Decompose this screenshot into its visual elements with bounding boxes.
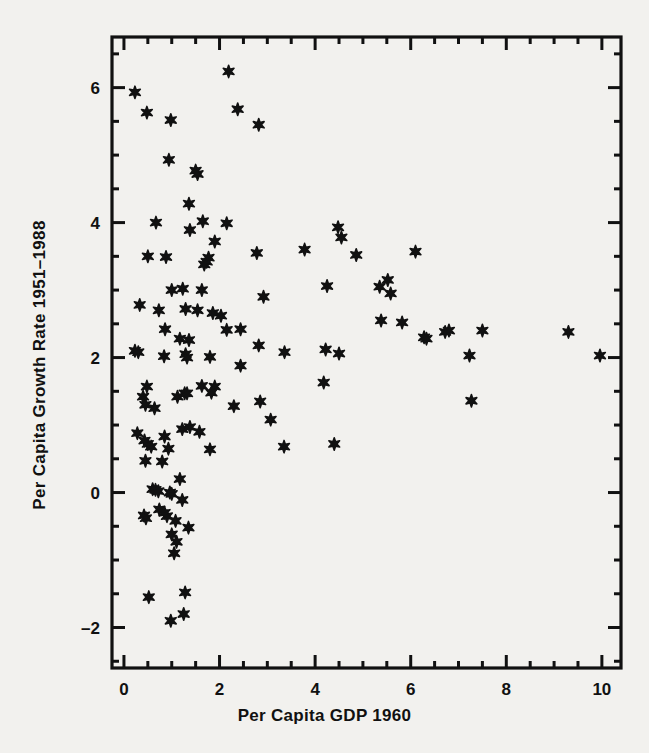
data-point [157,455,168,467]
data-point [329,438,340,450]
data-point [299,243,310,255]
data-point [130,86,141,98]
data-point [334,347,345,359]
data-point [251,247,262,259]
data-point [180,303,191,315]
data-point [160,323,171,335]
data-point [258,291,269,303]
data-point [351,249,362,261]
data-point [159,350,170,362]
data-point [385,287,396,299]
data-point [140,455,151,467]
data-point [166,284,177,296]
data-point [318,376,329,388]
data-point [183,521,194,533]
data-point [153,304,164,316]
data-point [159,430,170,442]
data-point [229,400,240,412]
y-tick-label: 6 [91,79,100,98]
data-point [223,65,234,77]
data-point [477,324,488,336]
x-tick-label: 2 [215,680,224,699]
x-tick-label: 10 [592,680,611,699]
data-point [209,235,220,247]
data-point [142,250,153,262]
y-tick-label: 2 [91,349,100,368]
data-point [163,442,174,454]
data-point [235,323,246,335]
data-point [253,339,264,351]
data-point [205,351,216,363]
data-point [279,440,290,452]
x-tick-label: 8 [502,680,511,699]
data-point [197,215,208,227]
scatter-plot-figure: 0246810 6420–2 Per Capita GDP 1960 Per C… [0,0,649,753]
x-axis-ticks [124,37,602,668]
x-tick-label: 4 [310,680,320,699]
data-point [320,343,331,355]
data-point [410,245,421,257]
plot-canvas: 0246810 6420–2 [0,0,649,753]
data-point [279,346,290,358]
data-point [397,316,408,328]
data-point [177,494,188,506]
data-point [180,586,191,598]
data-point [142,106,153,118]
data-point [170,515,181,527]
y-tick-label: –2 [81,619,100,638]
data-point [196,284,207,296]
data-point [595,349,606,361]
data-point [466,395,477,407]
data-point [253,119,264,131]
y-axis-tick-labels: 6420–2 [81,79,100,638]
data-point [185,224,196,236]
y-axis-title: Per Capita Growth Rate 1951–1988 [30,155,50,575]
data-point [151,216,162,228]
x-tick-label: 0 [119,680,128,699]
y-tick-label: 4 [91,214,101,233]
data-point [134,299,145,311]
data-point [143,591,154,603]
data-point [265,413,276,425]
data-point [178,608,189,620]
data-point [161,251,172,263]
x-tick-label: 6 [406,680,415,699]
data-point [232,103,243,115]
scatter-points [130,65,606,627]
y-tick-label: 0 [91,484,100,503]
data-point [164,154,175,166]
data-point [255,395,266,407]
data-point [194,426,205,438]
data-point [175,473,186,485]
data-point [165,615,176,627]
data-point [221,324,232,336]
data-point [192,304,203,316]
data-point [205,443,216,455]
data-point [221,217,232,229]
data-point [322,280,333,292]
data-point [563,326,574,338]
data-point [376,314,387,326]
x-axis-tick-labels: 0246810 [119,680,611,699]
data-point [177,283,188,295]
data-point [165,114,176,126]
data-point [169,547,180,559]
x-axis-title: Per Capita GDP 1960 [0,706,649,726]
data-point [464,349,475,361]
data-point [235,359,246,371]
data-point [184,197,195,209]
